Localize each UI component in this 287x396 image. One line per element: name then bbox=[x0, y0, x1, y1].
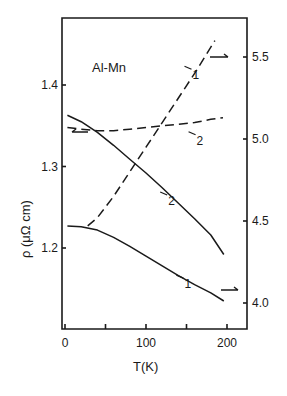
y-axis-title: ρ (μΩ cm) bbox=[18, 200, 33, 258]
x-tick-label: 200 bbox=[217, 336, 237, 350]
right-axis-arrow-icon bbox=[221, 287, 238, 290]
curves bbox=[67, 41, 223, 301]
right-axis-arrow-icon bbox=[210, 54, 228, 57]
y-tick-label: 1.4 bbox=[41, 78, 58, 92]
series-1-solid- bbox=[67, 226, 223, 301]
x-tick-label: 0 bbox=[62, 336, 69, 350]
y-right-tick-label: 4.0 bbox=[252, 296, 269, 310]
curve-labels: 1221 bbox=[72, 54, 238, 291]
chart-plot: 01002001.21.31.44.04.55.05.5 1221 Al-Mn … bbox=[0, 0, 287, 396]
y-right-tick-label: 5.5 bbox=[252, 50, 269, 64]
y-tick-label: 1.3 bbox=[41, 160, 58, 174]
curve-label-leader bbox=[176, 275, 183, 278]
axes: 01002001.21.31.44.04.55.05.5 bbox=[41, 18, 269, 350]
chart-figure: 01002001.21.31.44.04.55.05.5 1221 Al-Mn … bbox=[0, 0, 287, 396]
y-right-tick-label: 5.0 bbox=[252, 132, 269, 146]
plot-frame bbox=[62, 18, 247, 329]
curve-label: 2 bbox=[168, 194, 175, 208]
curve-label-leader bbox=[189, 132, 196, 135]
x-axis-title: T(K) bbox=[133, 359, 158, 374]
y-right-tick-label: 4.5 bbox=[252, 214, 269, 228]
curve-label: 1 bbox=[193, 68, 200, 82]
curve-label-leader bbox=[185, 66, 192, 69]
curve-label: 1 bbox=[184, 277, 191, 291]
annotation-al-mn: Al-Mn bbox=[92, 60, 126, 75]
x-tick-label: 100 bbox=[136, 336, 156, 350]
y-tick-label: 1.2 bbox=[41, 241, 58, 255]
curve-label: 2 bbox=[197, 134, 204, 148]
